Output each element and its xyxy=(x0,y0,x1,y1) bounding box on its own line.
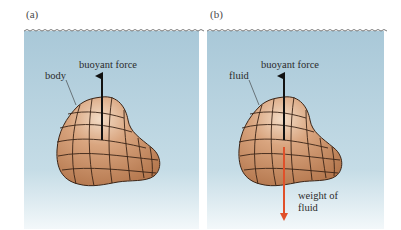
buoyant-force-label: buoyant force xyxy=(79,59,137,70)
body-label: body xyxy=(45,70,67,81)
panel-b: fluid buoyant force weight of fluid xyxy=(207,30,387,230)
buoyancy-diagram: body buoyant force fluid buoyant force w… xyxy=(0,0,401,229)
panel-a: body buoyant force xyxy=(24,30,204,230)
water-surface-wave xyxy=(207,30,387,32)
fluid-label: fluid xyxy=(229,70,250,81)
buoyant-force-label: buoyant force xyxy=(261,59,319,70)
weight-of-fluid-label-line2: fluid xyxy=(298,202,319,213)
water-surface-wave xyxy=(24,30,204,32)
weight-of-fluid-label-line1: weight of xyxy=(298,190,338,201)
